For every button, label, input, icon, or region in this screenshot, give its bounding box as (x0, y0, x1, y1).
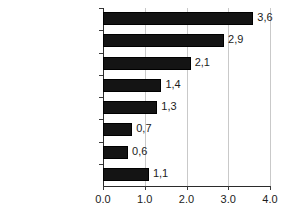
x-axis-tick (145, 186, 146, 190)
x-axis-tick (270, 186, 271, 190)
bar-japan (103, 146, 128, 159)
x-axis-tick-label: 4.0 (250, 192, 282, 206)
bar-mexico-chile (103, 12, 253, 25)
x-axis-tick-label: 1.0 (125, 192, 165, 206)
bar-value-label: 1,3 (161, 99, 176, 114)
bar-south-korea (103, 57, 191, 70)
bar-rows: 3,6Mexico/Chile2,9Australia/New Zealand2… (103, 8, 270, 186)
bar-value-label: 0,6 (132, 144, 147, 159)
y-axis-tick (99, 164, 103, 165)
x-axis-tick-label: 3.0 (208, 192, 248, 206)
bar-value-label: 1,4 (165, 77, 180, 92)
y-axis-tick (99, 30, 103, 31)
x-axis-tick-label: 0.0 (83, 192, 123, 206)
y-axis-tick (99, 119, 103, 120)
x-axis-tick (228, 186, 229, 190)
bar-row: 1,3OECD Europe (103, 97, 270, 119)
y-axis-tick (99, 53, 103, 54)
bar-value-label: 0,7 (136, 121, 151, 136)
x-axis-tick (187, 186, 188, 190)
bar-oecd-europe (103, 101, 157, 114)
bar-united-states (103, 123, 132, 136)
x-axis-tick (103, 186, 104, 190)
y-axis-tick (99, 97, 103, 98)
y-axis-tick (99, 8, 103, 9)
bar-canada (103, 79, 161, 92)
bar-row: 1,1Total OECD (103, 164, 270, 186)
bar-total-oecd (103, 168, 149, 181)
bar-row: 2,1South Korea (103, 53, 270, 75)
bar-row: 0,6Japan (103, 142, 270, 164)
x-axis-tick-label: 2.0 (167, 192, 207, 206)
bar-row: 3,6Mexico/Chile (103, 8, 270, 30)
gridline-4-0 (270, 8, 271, 186)
y-axis-tick (99, 142, 103, 143)
bar-australia-new-zealand (103, 34, 224, 47)
y-axis-tick (99, 75, 103, 76)
bar-row: 2,9Australia/New Zealand (103, 30, 270, 52)
bar-value-label: 3,6 (257, 10, 272, 25)
bar-value-label: 2,9 (228, 32, 243, 47)
bar-value-label: 2,1 (195, 55, 210, 70)
bar-row: 1,4Canada (103, 75, 270, 97)
bar-chart: 3,6Mexico/Chile2,9Australia/New Zealand2… (0, 0, 282, 210)
bar-value-label: 1,1 (153, 166, 168, 181)
bar-row: 0,7United States (103, 119, 270, 141)
plot-area: 3,6Mexico/Chile2,9Australia/New Zealand2… (103, 8, 270, 186)
